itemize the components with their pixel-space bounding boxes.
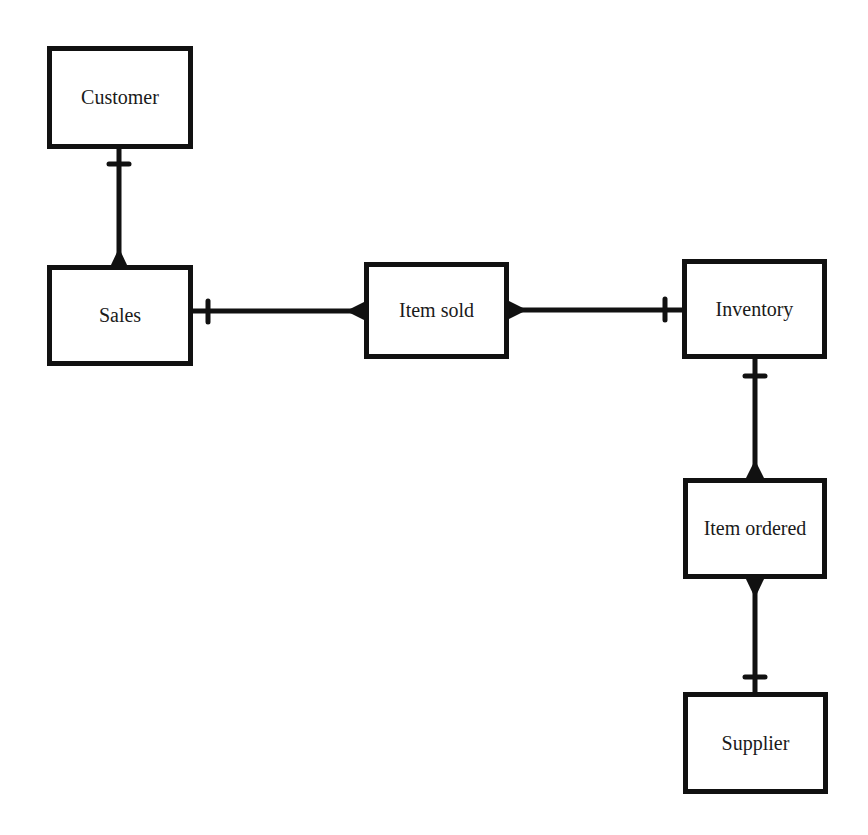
entity-label: Item sold bbox=[399, 299, 474, 322]
entity-label: Item ordered bbox=[704, 517, 807, 540]
link-customer-sales bbox=[109, 148, 129, 267]
link-inventory-itemordered bbox=[745, 358, 765, 480]
entity-label: Sales bbox=[99, 304, 141, 327]
link-itemordered-supplier bbox=[745, 577, 765, 693]
entity-label: Supplier bbox=[722, 732, 790, 755]
entity-label: Customer bbox=[81, 86, 159, 109]
entity-item-sold: Item sold bbox=[364, 262, 509, 359]
entity-item-ordered: Item ordered bbox=[683, 478, 827, 579]
entity-label: Inventory bbox=[716, 298, 794, 321]
link-itemsold-inventory bbox=[507, 299, 683, 320]
entity-customer: Customer bbox=[47, 46, 193, 149]
entity-inventory: Inventory bbox=[682, 259, 827, 359]
link-sales-itemsold bbox=[192, 301, 366, 322]
entity-sales: Sales bbox=[47, 265, 193, 366]
er-diagram: Customer Sales Item sold Inventory Item … bbox=[0, 0, 868, 835]
entity-supplier: Supplier bbox=[683, 692, 828, 794]
